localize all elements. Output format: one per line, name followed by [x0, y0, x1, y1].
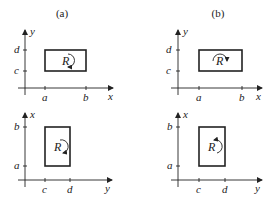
horizontal-axis-label: x	[255, 90, 261, 102]
horizontal-axis-label: x	[107, 90, 113, 102]
tick-label: c	[166, 64, 171, 76]
tick-label: b	[167, 120, 173, 132]
region-label: R	[215, 54, 224, 68]
tick-label: d	[222, 183, 228, 195]
region-label: R	[207, 140, 216, 154]
tick-label: c	[14, 64, 19, 76]
panel-top-right: y x d c a b R	[166, 25, 262, 103]
tick-label: b	[83, 91, 89, 103]
region-label: R	[53, 140, 62, 154]
vertical-axis-label: x	[29, 108, 35, 120]
horizontal-axis-label: y	[104, 182, 110, 194]
tick-label: b	[14, 120, 20, 132]
horizontal-axis-label: y	[254, 182, 260, 194]
panel-top-left: y x d c a b R	[14, 25, 113, 103]
tick-label: d	[166, 43, 172, 55]
tick-label: a	[42, 91, 48, 103]
tick-label: d	[14, 43, 20, 55]
region-label: R	[61, 54, 70, 68]
tick-label: b	[239, 91, 245, 103]
panel-bottom-right: x y b a c d R	[167, 108, 262, 195]
tick-label: a	[14, 159, 20, 171]
column-title-b: (b)	[212, 7, 225, 20]
vertical-axis-label: y	[182, 25, 188, 37]
tick-label: a	[196, 91, 202, 103]
tick-label: c	[42, 183, 47, 195]
vertical-axis-label: x	[182, 108, 188, 120]
panel-bottom-left: x y b a c d R	[14, 108, 112, 195]
tick-label: c	[196, 183, 201, 195]
column-title-a: (a)	[56, 7, 69, 20]
vertical-axis-label: y	[29, 25, 35, 37]
diagram-canvas: (a) (b) y x d c a b R y x d c a b R	[0, 0, 273, 203]
tick-label: d	[67, 183, 73, 195]
tick-label: a	[167, 159, 173, 171]
